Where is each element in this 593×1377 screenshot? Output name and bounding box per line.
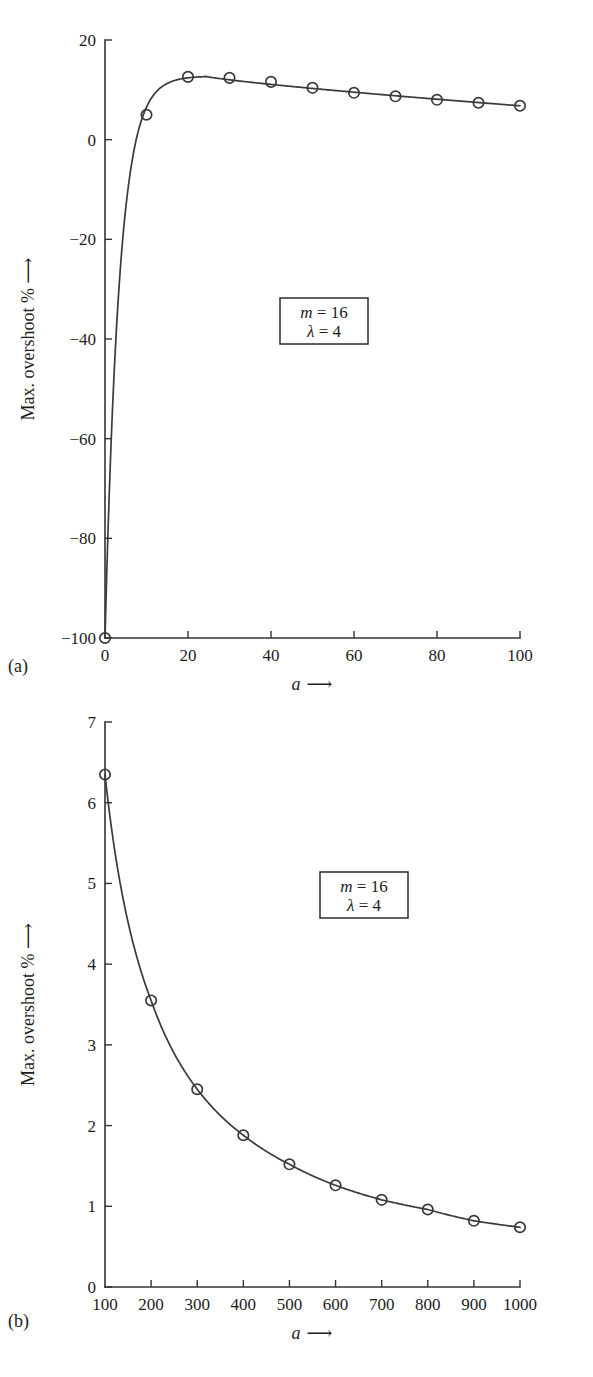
chart-b-overshoot-vs-a: 012345671002003004005006007008009001000a… <box>0 687 593 1377</box>
x-tick-label: 40 <box>263 646 280 665</box>
annotation-line-2: λ = 4 <box>306 322 341 341</box>
data-series-curve <box>105 76 520 638</box>
x-tick-label: 500 <box>277 1295 303 1314</box>
x-axis-title-variable: a <box>292 1323 301 1343</box>
y-tick-label: −80 <box>69 529 96 548</box>
x-tick-label: 100 <box>507 646 533 665</box>
annotation-m-symbol: m <box>300 303 312 322</box>
x-tick-label: 700 <box>369 1295 395 1314</box>
y-tick-label: 4 <box>88 955 97 974</box>
annotation-m-value: = 16 <box>353 877 388 896</box>
y-tick-label: 2 <box>88 1117 97 1136</box>
x-tick-label: 800 <box>415 1295 441 1314</box>
data-point-marker <box>266 77 276 87</box>
x-tick-label: 20 <box>180 646 197 665</box>
x-tick-label: 60 <box>346 646 363 665</box>
annotation-box: m = 16λ = 4 <box>280 298 368 344</box>
annotation-line-2: λ = 4 <box>346 896 381 915</box>
x-tick-label: 400 <box>231 1295 257 1314</box>
annotation-lambda-symbol: λ <box>346 896 354 915</box>
annotation-line-1: m = 16 <box>300 303 347 322</box>
x-tick-label: 300 <box>184 1295 210 1314</box>
annotation-lambda-symbol: λ <box>306 322 314 341</box>
annotation-lambda-value: = 4 <box>314 322 341 341</box>
annotation-m-value: = 16 <box>313 303 348 322</box>
y-tick-label: −20 <box>69 230 96 249</box>
y-tick-label: −60 <box>69 430 96 449</box>
annotation-line-1: m = 16 <box>340 877 387 896</box>
y-tick-label: −40 <box>69 330 96 349</box>
chart-a-overshoot-vs-a: −100−80−60−40−20020020406080100a⟶Max. ov… <box>0 0 593 690</box>
x-tick-label: 1000 <box>503 1295 537 1314</box>
x-tick-label: 900 <box>461 1295 487 1314</box>
figure-panel-a: −100−80−60−40−20020020406080100a⟶Max. ov… <box>0 0 593 690</box>
y-axis-title: Max. overshoot % ⟶ <box>18 923 38 1086</box>
annotation-m-symbol: m <box>340 877 352 896</box>
y-axis-title: Max. overshoot % ⟶ <box>18 257 38 420</box>
y-axis-title-text: Max. overshoot % ⟶ <box>18 923 38 1086</box>
x-tick-label: 0 <box>101 646 110 665</box>
x-tick-label: 100 <box>92 1295 118 1314</box>
x-tick-label: 200 <box>138 1295 164 1314</box>
x-axis-title: a⟶ <box>292 1323 333 1343</box>
y-tick-label: −100 <box>61 629 96 648</box>
annotation-lambda-value: = 4 <box>354 896 381 915</box>
panel-label: (b) <box>8 1311 29 1332</box>
y-tick-label: 20 <box>79 31 96 50</box>
data-series-curve <box>105 774 520 1227</box>
y-tick-label: 6 <box>88 794 97 813</box>
y-axis-title-text: Max. overshoot % ⟶ <box>18 257 38 420</box>
figure-panel-b: 012345671002003004005006007008009001000a… <box>0 687 593 1377</box>
y-tick-label: 1 <box>88 1197 97 1216</box>
y-tick-label: 3 <box>88 1036 97 1055</box>
x-axis-title-arrow: ⟶ <box>307 1323 333 1343</box>
panel-label: (a) <box>8 656 28 677</box>
annotation-box: m = 16λ = 4 <box>320 872 408 918</box>
y-tick-label: 0 <box>88 131 97 150</box>
y-tick-label: 5 <box>88 874 97 893</box>
x-tick-label: 600 <box>323 1295 349 1314</box>
y-tick-label: 7 <box>88 713 97 732</box>
x-tick-label: 80 <box>429 646 446 665</box>
data-point-marker <box>224 73 234 83</box>
